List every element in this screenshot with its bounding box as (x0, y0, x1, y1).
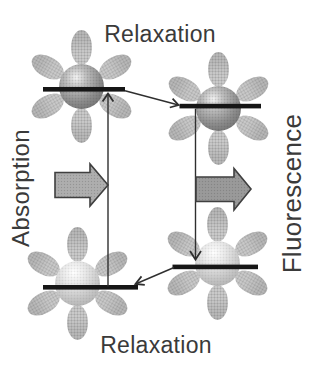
photophysics-cycle-diagram: Relaxation Absorption Fluorescence Relax… (0, 0, 315, 381)
fluorescence-label: Fluorescence (277, 108, 308, 280)
fluorescence-light-block-arrow-texture (196, 169, 251, 211)
relaxation-label-bottom: Relaxation (94, 332, 218, 359)
absorption-light-block-arrow-texture (55, 164, 108, 206)
energy-level-bar-top-left (43, 87, 125, 92)
relaxation-transition-arrow-top (125, 91, 179, 105)
relaxation-label-top: Relaxation (98, 21, 222, 48)
diagram-arrows-layer (0, 0, 315, 381)
energy-level-bar-bottom-left (43, 285, 138, 290)
absorption-label: Absorption (7, 114, 35, 262)
relaxation-transition-arrow-bottom (136, 268, 175, 285)
energy-level-bar-top-right (180, 104, 262, 109)
energy-level-bar-bottom-right (173, 265, 259, 270)
